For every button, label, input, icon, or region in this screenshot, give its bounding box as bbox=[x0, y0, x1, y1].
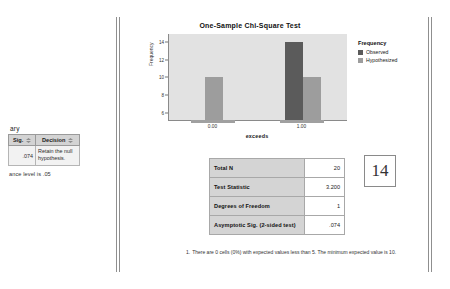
summary-table: Sig. Decision .074 Retain the null hypot… bbox=[8, 134, 80, 166]
bar-hypothesized-0.00 bbox=[205, 77, 223, 120]
x-axis-category-bands bbox=[168, 120, 346, 123]
y-axis-ticks: 14121086 bbox=[152, 34, 168, 120]
legend-item-hypothesized[interactable]: Hypothesized bbox=[358, 57, 424, 63]
plot-outer: Frequency 14121086 0.001.00 exceeds bbox=[150, 34, 346, 134]
result-label: Total N bbox=[210, 159, 305, 178]
page-number: 14 bbox=[372, 161, 389, 181]
y-axis-tick-label: 12 bbox=[159, 57, 164, 62]
column-header-decision-label: Decision bbox=[42, 137, 65, 143]
result-label: Degrees of Freedom bbox=[210, 197, 305, 216]
footnote-index: 1. bbox=[186, 249, 190, 255]
result-label: Test Statistic bbox=[210, 178, 305, 197]
chi-square-chart: One-Sample Chi-Square Test Frequency 141… bbox=[150, 22, 350, 142]
legend-swatch-observed-icon bbox=[358, 50, 363, 55]
x-axis-tick-label: 0.00 bbox=[208, 124, 217, 129]
result-label: Asymptotic Sig. (2-sided test) bbox=[210, 216, 305, 235]
result-value: 1 bbox=[305, 197, 345, 216]
summary-footnote: ance level is .05 bbox=[8, 171, 112, 177]
sort-icon[interactable] bbox=[26, 138, 31, 143]
x-axis-band bbox=[280, 120, 324, 123]
table-row: Degrees of Freedom1 bbox=[210, 197, 345, 216]
legend-label-hypothesized: Hypothesized bbox=[366, 57, 397, 63]
cell-decision-value: Retain the null hypothesis. bbox=[36, 146, 80, 166]
result-value: 20 bbox=[305, 159, 345, 178]
table-row: .074 Retain the null hypothesis. bbox=[9, 146, 80, 166]
column-header-sig-label: Sig. bbox=[13, 137, 23, 143]
column-header-sig[interactable]: Sig. bbox=[9, 135, 36, 146]
x-axis-label: exceeds bbox=[168, 133, 346, 139]
table-footnote: 1.There are 0 cells (0%) with expected v… bbox=[186, 249, 401, 256]
right-divider-rule bbox=[428, 17, 429, 272]
column-header-decision[interactable]: Decision bbox=[36, 135, 80, 146]
result-value: 3.200 bbox=[305, 178, 345, 197]
y-axis-tick-label: 14 bbox=[159, 39, 164, 44]
legend-item-observed[interactable]: Observed bbox=[358, 49, 424, 55]
right-divider-rule-inner bbox=[431, 17, 432, 272]
x-axis-tick-label: 1.00 bbox=[297, 124, 306, 129]
legend-label-observed: Observed bbox=[366, 49, 389, 55]
report-page: ary Sig. Decision .074 Retain t bbox=[0, 0, 450, 289]
hypothesis-test-summary-panel: ary Sig. Decision .074 Retain t bbox=[8, 125, 112, 177]
x-axis-band bbox=[191, 120, 235, 123]
left-divider-rule bbox=[116, 17, 117, 272]
plot-area bbox=[168, 34, 347, 121]
table-row: Total N20 bbox=[210, 159, 345, 178]
table-row: Test Statistic3.200 bbox=[210, 178, 345, 197]
y-axis-tick-label: 6 bbox=[161, 110, 164, 115]
result-value: .074 bbox=[305, 216, 345, 235]
legend-title: Frequency bbox=[358, 40, 424, 46]
page-number-box: 14 bbox=[364, 155, 396, 187]
bar-hypothesized-1.00 bbox=[303, 77, 321, 120]
y-axis-tick-label: 8 bbox=[161, 93, 164, 98]
cell-sig-value: .074 bbox=[9, 146, 36, 166]
table-row: Asymptotic Sig. (2-sided test).074 bbox=[210, 216, 345, 235]
table-header-row: Sig. Decision bbox=[9, 135, 80, 146]
chart-title: One-Sample Chi-Square Test bbox=[150, 22, 350, 29]
summary-title: ary bbox=[8, 125, 112, 132]
bar-observed-1.00 bbox=[285, 42, 303, 120]
left-divider-rule-inner bbox=[119, 17, 120, 272]
legend-swatch-hypothesized-icon bbox=[358, 58, 363, 63]
footnote-text: There are 0 cells (0%) with expected val… bbox=[192, 249, 396, 255]
chart-legend: Frequency Observed Hypothesized bbox=[358, 40, 424, 65]
y-axis-tick-label: 10 bbox=[159, 75, 164, 80]
test-results-table: Total N20Test Statistic3.200Degrees of F… bbox=[209, 158, 345, 235]
sort-icon[interactable] bbox=[68, 138, 73, 143]
